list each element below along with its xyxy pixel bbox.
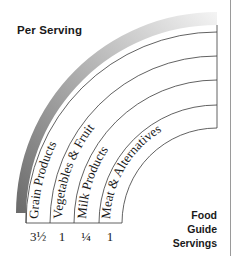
legend-line-3: Servings (173, 236, 217, 250)
legend-line-1: Food (173, 208, 217, 222)
food-guide-servings-legend: Food Guide Servings (173, 208, 217, 250)
legend-line-2: Guide (173, 222, 217, 236)
servings-milk: ¼ (74, 229, 98, 245)
label-meat-alternatives: Meat & Alternatives (98, 121, 164, 219)
servings-vegetables: 1 (50, 229, 74, 245)
servings-meat: 1 (98, 229, 122, 245)
right-divider (230, 0, 231, 256)
servings-grain: 3½ (26, 229, 50, 245)
